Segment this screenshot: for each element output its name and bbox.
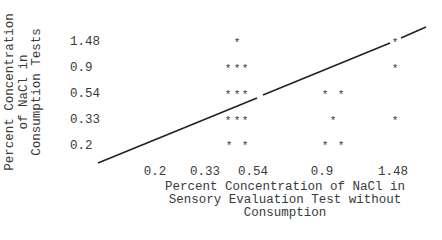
data-point-marker: * [242, 116, 249, 127]
data-point-marker: * [322, 141, 329, 152]
data-point-marker: * [225, 64, 232, 75]
x-axis-label-line-3: Consumption [140, 207, 430, 220]
x-tick-0-9: 0.9 [311, 165, 334, 179]
data-point-marker: * [392, 38, 399, 49]
x-axis-label: Percent Concentration of NaCl in Sensory… [140, 181, 430, 220]
data-point-marker: * [322, 90, 329, 101]
data-point-marker: * [338, 90, 345, 101]
x-tick-1-48: 1.48 [378, 165, 408, 179]
x-tick-0-2: 0.2 [144, 165, 167, 179]
data-point-marker: * [392, 116, 399, 127]
data-point-marker: * [242, 64, 249, 75]
data-point-marker: * [242, 90, 249, 101]
data-point-marker: * [225, 90, 232, 101]
data-point-marker: * [225, 116, 232, 127]
data-point-marker: * [330, 116, 337, 127]
data-point-marker: * [234, 64, 241, 75]
data-point-marker: * [234, 38, 241, 49]
data-point-marker: * [234, 90, 241, 101]
data-point-marker: * [242, 141, 249, 152]
data-point-marker: * [226, 141, 233, 152]
data-point-marker: * [392, 64, 399, 75]
data-point-marker: * [338, 141, 345, 152]
data-point-marker: * [234, 116, 241, 127]
x-tick-0-33: 0.33 [190, 165, 220, 179]
x-tick-0-54: 0.54 [238, 165, 268, 179]
